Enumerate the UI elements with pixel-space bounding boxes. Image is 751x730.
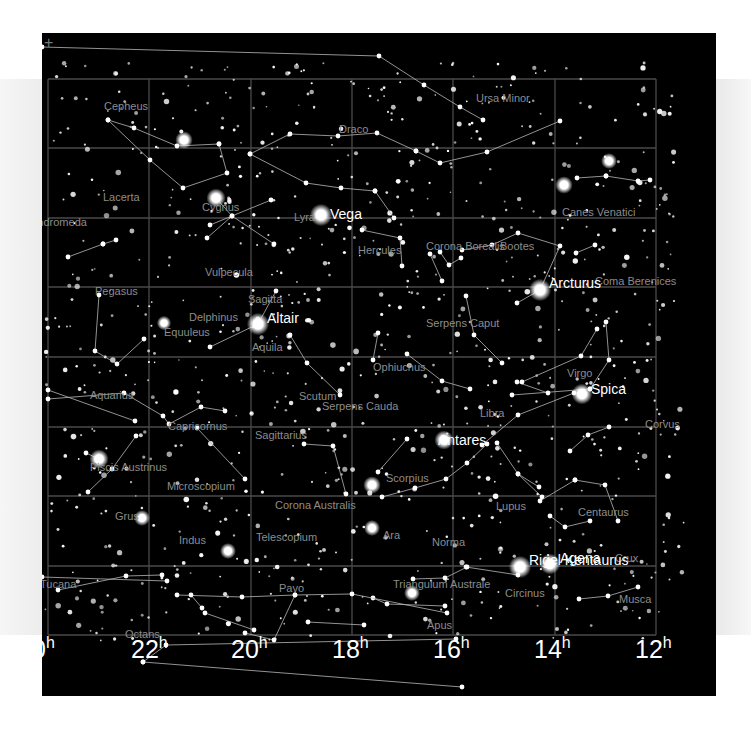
constellation-label: Sagitta	[248, 294, 282, 305]
constellation-line	[375, 191, 394, 218]
star-name-label: Spica	[591, 382, 626, 396]
constellation-line	[576, 245, 595, 253]
ra-hour-unit: h	[46, 634, 55, 651]
constellation-line	[250, 154, 375, 191]
constellation-line	[440, 252, 461, 265]
constellation-line	[540, 480, 575, 501]
constellation-label: Triangulum Australe	[393, 579, 490, 590]
constellation-label: Libra	[480, 408, 504, 419]
ra-hour-unit: h	[360, 634, 369, 651]
star-name-label: Antares	[438, 433, 486, 447]
constellation-label: Tucana	[42, 579, 76, 590]
ra-tick-label: 16h	[433, 637, 470, 662]
constellation-label: Pavo	[279, 583, 304, 594]
constellation-line	[482, 393, 574, 445]
constellation-line	[373, 333, 378, 360]
constellation-line	[68, 244, 103, 257]
constellation-label: Serpens Caput	[426, 318, 499, 329]
constellation-label: Aquarius	[90, 390, 133, 401]
constellation-label: Corona Australis	[275, 500, 356, 511]
constellation-line	[308, 622, 364, 625]
constellation-line	[143, 662, 462, 687]
constellation-label: Cepheus	[104, 101, 148, 112]
constellation-line	[577, 176, 606, 178]
constellation-label: Telescopium	[256, 532, 317, 543]
star-chart[interactable]: + CepheusDracoUrsa MinorLacertaCygnusLyr…	[42, 33, 716, 696]
star-name-label: Agena	[560, 551, 600, 565]
constellation-label: Cygnus	[202, 202, 239, 213]
constellation-label: Lupus	[496, 501, 526, 512]
constellation-line	[197, 428, 245, 479]
constellation-label: Ophiuchus	[373, 362, 426, 373]
constellation-line	[378, 439, 407, 472]
ra-hour-value: 14	[534, 635, 562, 663]
crosshair-icon: +	[44, 35, 53, 51]
constellation-line	[205, 613, 254, 630]
ra-hour-value: 18	[332, 635, 360, 663]
constellation-line	[95, 295, 144, 364]
constellation-label: Canes Venatici	[562, 207, 635, 218]
constellation-line	[304, 444, 346, 494]
ra-hour-unit: h	[159, 634, 168, 651]
constellation-label: Corvus	[645, 419, 680, 430]
constellation-label: Grus	[115, 511, 139, 522]
ra-hour-unit: h	[562, 634, 571, 651]
constellation-label: Hercules	[358, 245, 401, 256]
ra-hour-value: 20	[231, 635, 259, 663]
ra-tick-label: 0h	[42, 637, 55, 662]
ra-hour-value: 22	[131, 635, 159, 663]
constellation-label: Sagittarius	[255, 430, 307, 441]
ra-hour-unit: h	[259, 634, 268, 651]
constellation-label: Corona Borealis	[426, 241, 505, 252]
ra-hour-value: 12	[635, 635, 663, 663]
star-name-label: Arcturus	[549, 276, 601, 290]
star-name-label: Altair	[267, 311, 299, 325]
constellation-label: Pegasus	[95, 286, 138, 297]
constellation-line	[143, 639, 456, 662]
constellation-line	[430, 254, 442, 281]
constellation-label: Capricornus	[168, 421, 227, 432]
constellation-line	[590, 322, 609, 389]
constellation-label: Apus	[427, 620, 452, 631]
constellation-label: Norma	[432, 537, 465, 548]
constellation-label: Ara	[383, 530, 400, 541]
constellation-label: Serpens Cauda	[322, 401, 398, 412]
right-background-panel	[714, 79, 751, 635]
constellation-line	[382, 444, 487, 497]
ra-tick-label: 14h	[534, 637, 571, 662]
constellation-label: Lyra	[294, 212, 315, 223]
ra-tick-label: 20h	[231, 637, 268, 662]
ra-hour-unit: h	[461, 634, 470, 651]
ra-tick-label: 12h	[635, 637, 672, 662]
constellation-label: Ursa Minor	[476, 93, 530, 104]
ra-tick-label: 18h	[332, 637, 369, 662]
constellation-line	[416, 121, 560, 163]
constellation-line	[191, 595, 202, 608]
constellation-label: Musca	[619, 594, 651, 605]
ra-tick-label: 22h	[131, 637, 168, 662]
constellation-label: Vulpecula	[205, 267, 253, 278]
constellation-label: Lacerta	[103, 192, 140, 203]
constellation-line	[250, 133, 416, 154]
constellation-label: Circinus	[505, 588, 545, 599]
constellation-label: Equuleus	[164, 327, 210, 338]
constellation-label: Piscis Austrinus	[90, 462, 167, 473]
constellation-line	[466, 296, 502, 363]
ra-hour-unit: h	[663, 634, 672, 651]
constellation-line	[606, 176, 650, 181]
constellation-label: Centaurus	[578, 507, 629, 518]
constellation-label: Scorpius	[386, 473, 429, 484]
constellation-label: Aquila	[252, 342, 283, 353]
constellation-label: Delphinus	[189, 312, 238, 323]
ra-hour-value: 16	[433, 635, 461, 663]
constellation-label: Bootes	[500, 241, 534, 252]
constellation-line	[108, 120, 227, 188]
constellation-label: Draco	[339, 124, 368, 135]
constellation-line	[108, 120, 219, 146]
constellation-label: Andromeda	[42, 217, 87, 228]
left-background-panel	[0, 79, 44, 635]
constellation-label: Coma Berenices	[595, 276, 676, 287]
constellation-line	[245, 595, 295, 640]
constellation-line	[518, 474, 539, 487]
constellation-label: Virgo	[567, 368, 592, 379]
